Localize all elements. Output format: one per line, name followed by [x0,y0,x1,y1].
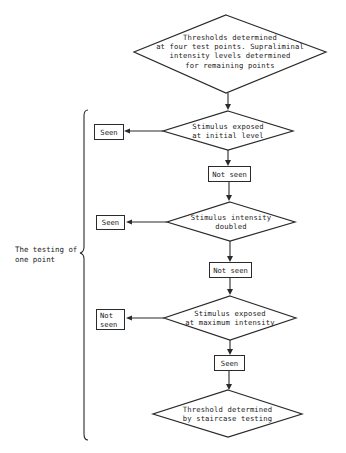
outcome-label: Not [100,311,113,320]
decision-text-line: at initial level [163,131,293,140]
brace-label: The testing of one point [15,245,77,265]
decision-text-line: at maximum intensity [164,318,296,327]
outcome-box-not-seen-2: Not seen [209,262,252,278]
decision-text-line: Stimulus exposed [163,122,293,131]
arrow-head-icon [227,289,233,295]
decision-2-text: Stimulus intensity doubled [167,213,295,231]
start-text-line: intensity levels determined [134,51,326,60]
outcome-label: Not seen [212,170,247,179]
start-text: Thresholds determined at four test point… [134,33,326,70]
arrow-head-icon [124,129,130,134]
decision-1-text: Stimulus exposed at initial level [163,122,293,140]
outcome-box-seen-3: Seen [214,355,245,371]
end-text: Threshold determined by staircase testin… [153,405,302,423]
decision-text-line: Stimulus intensity [167,213,295,222]
outcome-label: seen [100,320,117,329]
brace-label-line: one point [15,255,77,265]
arrow-head-icon [226,384,232,390]
start-text-line: at four test points. Supraliminal [134,42,326,51]
decision-3-text: Stimulus exposed at maximum intensity [164,309,296,327]
outcome-label: Seen [100,128,117,137]
outcome-box-seen-2: Seen [96,215,125,230]
arrow-head-icon [126,316,132,321]
end-text-line: by staircase testing [153,414,302,423]
outcome-box-not-seen-1: Not seen [208,166,251,182]
outcome-label: Seen [102,218,119,227]
brace [80,110,88,440]
decision-text-line: doubled [167,222,295,231]
arrow-head-icon [126,220,132,225]
end-text-line: Threshold determined [153,405,302,414]
outcome-box-seen-1: Seen [94,124,124,140]
start-text-line: Thresholds determined [134,33,326,42]
arrow-head-icon [225,104,231,110]
brace-label-line: The testing of [15,245,77,255]
outcome-label: Seen [221,359,238,368]
outcome-label: Not seen [213,266,248,275]
start-text-line: for remaining points [134,61,326,70]
arrow-head-icon [226,195,232,201]
outcome-box-not-seen-3: Not seen [96,309,125,330]
decision-text-line: Stimulus exposed [164,309,296,318]
